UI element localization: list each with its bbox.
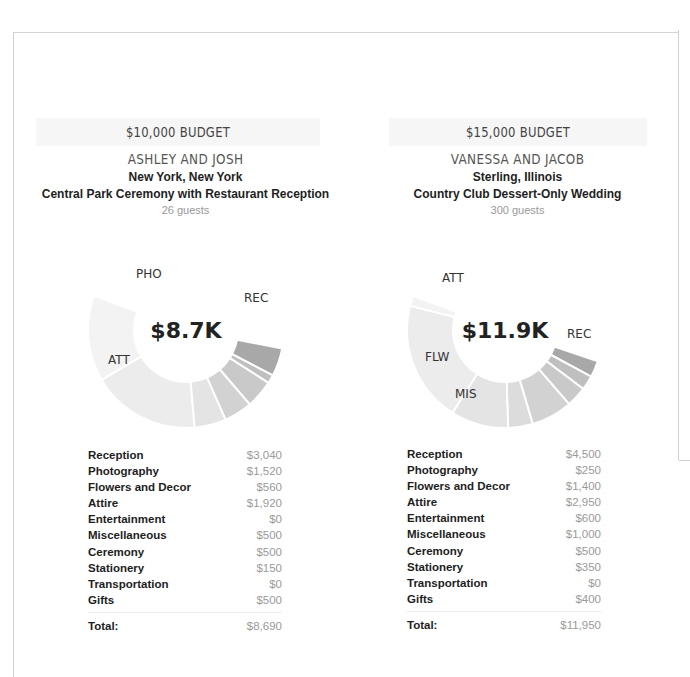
line-item-label: Attire — [407, 494, 437, 510]
line-item-value: $0 — [588, 575, 601, 591]
line-item-value: $350 — [575, 559, 601, 575]
budget-line-item: Reception$4,500 — [407, 446, 601, 462]
total-row: Total: $8,690 — [88, 618, 282, 634]
line-item-label: Reception — [88, 447, 144, 463]
line-item-value: $1,520 — [247, 463, 282, 479]
line-item-label: Entertainment — [407, 510, 484, 526]
line-item-value: $3,040 — [247, 447, 282, 463]
budget-line-item: Transportation$0 — [407, 575, 601, 591]
total-label: Total: — [407, 617, 437, 633]
couple-names: ASHLEY AND JOSH — [37, 151, 334, 167]
line-item-value: $150 — [256, 560, 282, 576]
line-item-value: $1,920 — [247, 495, 282, 511]
budget-line-item: Stationery$350 — [407, 559, 601, 575]
total-label: Total: — [88, 618, 118, 634]
budget-line-item: Attire$2,950 — [407, 494, 601, 510]
line-item-value: $4,500 — [566, 446, 601, 462]
segment-label-rec: REC — [567, 327, 591, 341]
segment-label-att: ATT — [442, 271, 464, 285]
budget-line-item: Photography$1,520 — [88, 463, 282, 479]
wedding-description: Country Club Dessert-Only Wedding — [345, 187, 690, 201]
budget-line-item: Entertainment$600 — [407, 510, 601, 526]
donut-center-total: $11.9K — [462, 318, 550, 343]
wedding-description: Central Park Ceremony with Restaurant Re… — [13, 187, 358, 201]
line-item-label: Stationery — [88, 560, 144, 576]
line-item-value: $500 — [256, 592, 282, 608]
frame-border-top — [13, 32, 678, 33]
line-item-label: Ceremony — [88, 544, 144, 560]
line-item-value: $0 — [269, 511, 282, 527]
budget-line-item: Ceremony$500 — [407, 543, 601, 559]
budget-line-item: Transportation$0 — [88, 576, 282, 592]
frame-border-right — [678, 30, 679, 460]
line-item-label: Flowers and Decor — [407, 478, 510, 494]
budget-donut-chart-15k: ATT REC FLW MIS $11.9K — [405, 230, 605, 430]
line-item-value: $2,950 — [566, 494, 601, 510]
budget-line-item: Miscellaneous$1,000 — [407, 526, 601, 542]
budget-line-item: Photography$250 — [407, 462, 601, 478]
line-item-label: Stationery — [407, 559, 463, 575]
donut-center-total: $8.7K — [150, 318, 222, 343]
budget-heading: $10,000 BUDGET — [36, 118, 320, 146]
total-row: Total: $11,950 — [407, 617, 601, 633]
line-item-value: $500 — [256, 544, 282, 560]
line-item-label: Miscellaneous — [88, 527, 167, 543]
wedding-location: Sterling, Illinois — [345, 170, 690, 184]
budget-line-item: Attire$1,920 — [88, 495, 282, 511]
budget-line-item: Entertainment$0 — [88, 511, 282, 527]
budget-breakdown-table-15k: Reception$4,500Photography$250Flowers an… — [407, 446, 601, 633]
segment-label-flw: FLW — [425, 350, 449, 364]
wedding-location: New York, New York — [13, 170, 358, 184]
line-item-value: $560 — [256, 479, 282, 495]
budget-line-item: Flowers and Decor$560 — [88, 479, 282, 495]
budget-card-10k: $10,000 BUDGET ASHLEY AND JOSH New York,… — [13, 118, 358, 216]
budget-donut-chart-10k: PHO REC ATT $8.7K — [86, 230, 286, 430]
line-item-label: Attire — [88, 495, 118, 511]
line-item-label: Transportation — [88, 576, 169, 592]
line-item-label: Entertainment — [88, 511, 165, 527]
segment-label-pho: PHO — [136, 267, 162, 281]
budget-line-item: Miscellaneous$500 — [88, 527, 282, 543]
budget-line-item: Gifts$500 — [88, 592, 282, 608]
line-item-label: Transportation — [407, 575, 488, 591]
line-item-value: $250 — [575, 462, 601, 478]
total-divider — [407, 611, 601, 612]
budget-line-item: Ceremony$500 — [88, 544, 282, 560]
line-item-label: Photography — [407, 462, 478, 478]
line-item-label: Gifts — [407, 591, 433, 607]
line-item-label: Flowers and Decor — [88, 479, 191, 495]
line-item-value: $600 — [575, 510, 601, 526]
line-item-value: $500 — [256, 527, 282, 543]
guest-count: 26 guests — [13, 204, 358, 216]
budget-breakdown-table-10k: Reception$3,040Photography$1,520Flowers … — [88, 447, 282, 634]
couple-names: VANESSA AND JACOB — [369, 151, 666, 167]
line-item-value: $400 — [575, 591, 601, 607]
segment-label-rec: REC — [244, 291, 268, 305]
line-item-value: $1,400 — [566, 478, 601, 494]
budget-line-item: Reception$3,040 — [88, 447, 282, 463]
line-item-label: Ceremony — [407, 543, 463, 559]
budget-heading: $15,000 BUDGET — [389, 118, 647, 146]
line-item-value: $0 — [269, 576, 282, 592]
line-item-label: Miscellaneous — [407, 526, 486, 542]
total-value: $8,690 — [247, 618, 282, 634]
budget-line-item: Stationery$150 — [88, 560, 282, 576]
total-divider — [88, 612, 282, 613]
segment-label-att: ATT — [108, 353, 130, 367]
segment-label-mis: MIS — [455, 387, 477, 401]
frame-border-tick — [679, 460, 690, 461]
line-item-label: Gifts — [88, 592, 114, 608]
line-item-label: Reception — [407, 446, 463, 462]
budget-card-15k: $15,000 BUDGET VANESSA AND JACOB Sterlin… — [345, 118, 690, 216]
guest-count: 300 guests — [345, 204, 690, 216]
line-item-value: $1,000 — [566, 526, 601, 542]
total-value: $11,950 — [560, 617, 601, 633]
budget-line-item: Flowers and Decor$1,400 — [407, 478, 601, 494]
line-item-value: $500 — [575, 543, 601, 559]
budget-line-item: Gifts$400 — [407, 591, 601, 607]
line-item-label: Photography — [88, 463, 159, 479]
